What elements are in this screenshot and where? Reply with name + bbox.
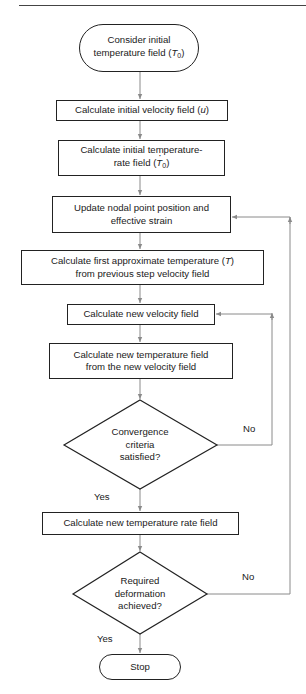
new-temp-rate-box: Calculate new temperature rate field bbox=[42, 512, 239, 535]
new-temp-field-box: Calculate new temperature field from the… bbox=[49, 343, 233, 379]
first-approx-line2: from previous step velocity field bbox=[51, 268, 234, 281]
start-text-line2: temperature field ( bbox=[94, 47, 172, 58]
paren-close: ) bbox=[181, 47, 184, 58]
deformation-line3: achieved? bbox=[115, 600, 166, 613]
new-velocity-text: Calculate new velocity field bbox=[83, 308, 198, 321]
paren-close: ) bbox=[231, 255, 234, 266]
new-temp-rate-text: Calculate new temperature rate field bbox=[63, 517, 217, 530]
convergence-yes-label: Yes bbox=[94, 491, 110, 502]
paren-close: ) bbox=[206, 104, 209, 115]
stop-text: Stop bbox=[130, 661, 150, 674]
paren-close: ) bbox=[166, 157, 169, 168]
deformation-no-label: No bbox=[242, 571, 254, 582]
symbol-T-dot: T bbox=[156, 157, 162, 170]
update-nodal-line2: effective strain bbox=[74, 215, 209, 228]
deformation-yes-label: Yes bbox=[97, 633, 113, 644]
init-temp-rate-line2: rate field ( bbox=[114, 157, 157, 168]
start-text-line1: Consider initial bbox=[94, 34, 185, 47]
update-nodal-line1: Update nodal point position and bbox=[74, 202, 209, 215]
first-approx-line1: Calculate first approximate temperature … bbox=[51, 255, 225, 266]
new-velocity-box: Calculate new velocity field bbox=[67, 304, 215, 325]
new-temp-field-line1: Calculate new temperature field bbox=[74, 349, 209, 362]
deformation-decision: Required deformation achieved? bbox=[95, 571, 185, 617]
stop-terminator: Stop bbox=[99, 654, 181, 680]
init-temp-rate-box: Calculate initial temperature- rate fiel… bbox=[58, 140, 225, 176]
first-approx-temp-box: Calculate first approximate temperature … bbox=[21, 250, 264, 285]
start-terminator: Consider initial temperature field (T0) bbox=[79, 24, 199, 72]
convergence-line2: criteria bbox=[111, 439, 168, 452]
deformation-line2: deformation bbox=[115, 588, 166, 601]
init-velocity-box: Calculate initial velocity field (u) bbox=[56, 100, 228, 121]
convergence-no-label: No bbox=[243, 423, 255, 434]
init-velocity-text: Calculate initial velocity field ( bbox=[75, 104, 200, 115]
deformation-line1: Required bbox=[115, 575, 166, 588]
update-nodal-box: Update nodal point position and effectiv… bbox=[52, 196, 231, 233]
convergence-line1: Convergence bbox=[111, 426, 168, 439]
new-temp-field-line2: from the new velocity field bbox=[74, 361, 209, 374]
convergence-decision: Convergence criteria satisfied? bbox=[90, 422, 190, 468]
init-temp-rate-line1: Calculate initial temperature- bbox=[80, 144, 202, 157]
convergence-line3: satisfied? bbox=[111, 451, 168, 464]
